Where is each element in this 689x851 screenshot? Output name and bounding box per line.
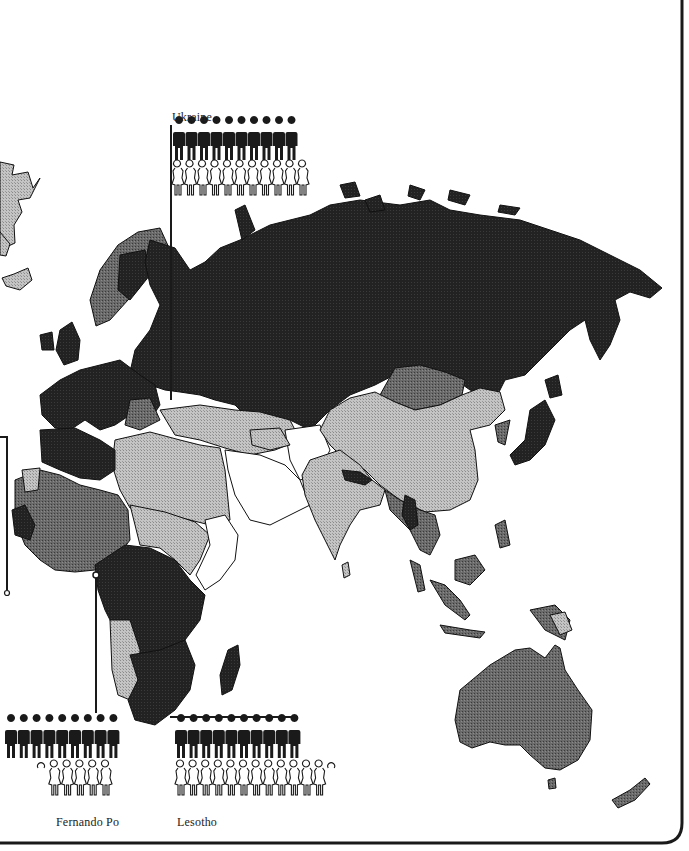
region-indonesia xyxy=(430,520,572,640)
female-figure-icon xyxy=(260,160,272,195)
male-figure-icon xyxy=(236,116,248,160)
male-figure-icon xyxy=(223,116,235,160)
male-figure-icon xyxy=(43,714,55,758)
female-figure-icon xyxy=(285,160,297,195)
male-figure-icon xyxy=(175,714,187,758)
male-figure-icon xyxy=(248,116,260,160)
female-figure-icon xyxy=(38,763,45,768)
male-figure-icon xyxy=(188,714,200,758)
female-figure-icon xyxy=(288,760,300,795)
female-figure-icon xyxy=(301,760,313,795)
female-figure-icon xyxy=(197,160,209,195)
female-figure-icon xyxy=(247,160,259,195)
female-figure-icon xyxy=(74,760,86,795)
male-figure-icon xyxy=(69,714,81,758)
male-figure-icon xyxy=(5,714,17,758)
female-figure-icon xyxy=(314,760,326,795)
male-figure-icon xyxy=(225,714,237,758)
male-figure-icon xyxy=(200,714,212,758)
female-figure-icon xyxy=(235,160,247,195)
male-figure-icon xyxy=(211,116,223,160)
female-figure-icon xyxy=(188,760,200,795)
male-figure-icon xyxy=(95,714,107,758)
female-figure-icon xyxy=(263,760,275,795)
female-figure-icon xyxy=(276,760,288,795)
male-figure-icon xyxy=(273,116,285,160)
male-figure-icon xyxy=(82,714,94,758)
region-sri-lanka xyxy=(342,562,350,578)
female-figure-icon xyxy=(272,160,284,195)
female-figure-icon xyxy=(185,160,197,195)
female-figure-icon xyxy=(213,760,225,795)
female-figure-icon xyxy=(297,160,309,195)
male-figure-icon xyxy=(213,714,225,758)
north-america-edge xyxy=(0,162,40,290)
male-figure-icon xyxy=(107,714,119,758)
region-new-zealand xyxy=(612,778,650,808)
male-figure-icon xyxy=(263,714,275,758)
female-figure-icon xyxy=(100,760,112,795)
male-figure-icon xyxy=(251,714,263,758)
male-figure-icon xyxy=(56,714,68,758)
male-figure-icon xyxy=(261,116,273,160)
female-figure-icon xyxy=(251,760,263,795)
female-figure-icon xyxy=(222,160,234,195)
lesotho-pictogram xyxy=(175,714,335,795)
male-figure-icon xyxy=(288,714,300,758)
ukraine-label: Ukraine xyxy=(172,110,212,125)
region-australia xyxy=(455,645,592,770)
male-figure-icon xyxy=(276,714,288,758)
female-figure-icon xyxy=(172,160,184,195)
fernando-po-pictogram xyxy=(5,714,119,795)
female-figure-icon xyxy=(200,760,212,795)
fernando-po-marker xyxy=(93,572,99,578)
lesotho-label: Lesotho xyxy=(177,815,217,830)
region-japan xyxy=(495,375,562,465)
ukraine-pictogram xyxy=(172,116,309,195)
female-figure-icon xyxy=(225,760,237,795)
female-figure-icon xyxy=(175,760,187,795)
male-figure-icon xyxy=(18,714,30,758)
female-figure-icon xyxy=(238,760,250,795)
region-tasmania xyxy=(548,778,556,789)
male-figure-icon xyxy=(238,714,250,758)
region-madagascar xyxy=(220,645,240,695)
female-figure-icon xyxy=(62,760,74,795)
female-figure-icon xyxy=(49,760,61,795)
region-western-europe xyxy=(40,322,160,430)
female-figure-icon xyxy=(210,160,222,195)
world-map xyxy=(0,0,689,851)
west-africa-marker xyxy=(5,591,10,596)
male-figure-icon xyxy=(286,116,298,160)
male-figure-icon xyxy=(31,714,43,758)
female-figure-icon xyxy=(87,760,99,795)
fernando-po-label: Fernando Po xyxy=(56,815,119,830)
female-figure-icon xyxy=(328,763,335,768)
west-africa-bracket xyxy=(0,437,7,590)
